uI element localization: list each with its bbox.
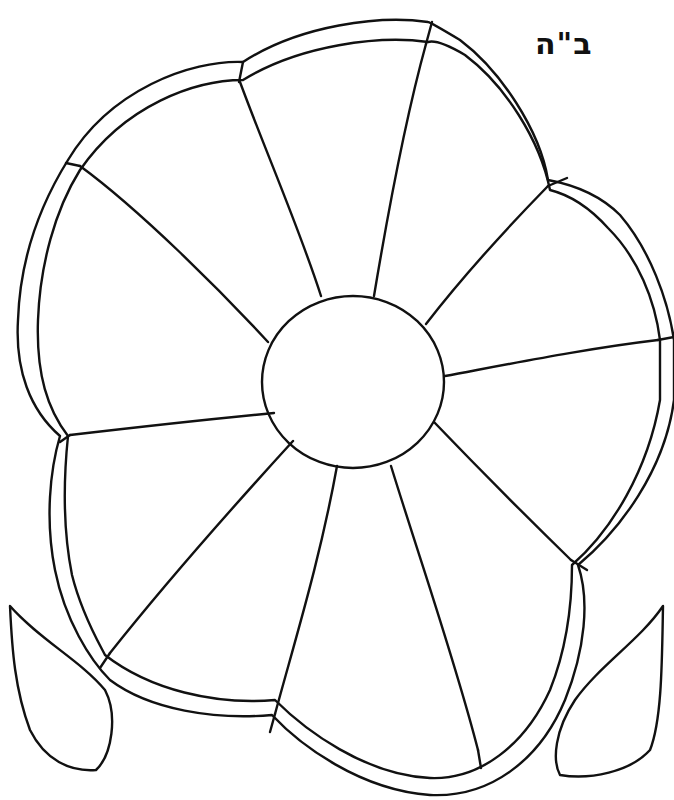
rim-junctions <box>60 22 674 768</box>
flower-inner-outline <box>38 40 660 778</box>
leaf-left <box>10 606 112 770</box>
flower-drawing <box>0 0 674 800</box>
flower-outer-outline <box>18 20 674 795</box>
petal-segment-lines <box>70 44 658 750</box>
leaf-right <box>556 606 663 776</box>
flower-center <box>262 296 444 468</box>
